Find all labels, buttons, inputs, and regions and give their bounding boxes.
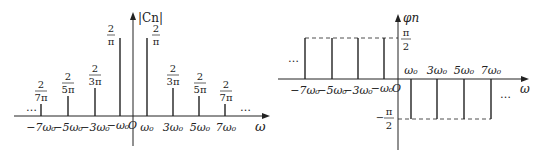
svg-text:7π: 7π xyxy=(220,92,233,103)
svg-text:5π: 5π xyxy=(194,84,207,95)
svg-text:O: O xyxy=(392,82,401,95)
svg-text:…: … xyxy=(288,52,299,65)
svg-text:−ω₀: −ω₀ xyxy=(371,82,394,95)
svg-text:2: 2 xyxy=(153,23,159,34)
y-axis-arrow-icon xyxy=(130,12,136,20)
svg-text:2: 2 xyxy=(108,23,114,34)
svg-text:3ω₀: 3ω₀ xyxy=(427,64,448,77)
svg-text:π: π xyxy=(153,36,160,47)
y-axis-arrow-icon xyxy=(395,14,401,22)
svg-text:…: … xyxy=(240,101,251,114)
svg-text:O: O xyxy=(128,119,137,132)
svg-text:ω: ω xyxy=(520,82,530,96)
svg-text:3π: 3π xyxy=(167,76,180,87)
svg-text:…: … xyxy=(26,101,37,114)
y-label: |Cn| xyxy=(138,11,163,25)
svg-text:−7ω₀: −7ω₀ xyxy=(26,121,56,134)
svg-text:−5ω₀: −5ω₀ xyxy=(53,121,83,134)
svg-text:π: π xyxy=(386,106,393,117)
svg-text:π: π xyxy=(108,36,115,47)
svg-text:3ω₀: 3ω₀ xyxy=(163,121,184,134)
svg-text:π: π xyxy=(403,27,410,38)
x-label: ω xyxy=(255,119,266,134)
svg-text:2: 2 xyxy=(197,71,203,82)
svg-text:2: 2 xyxy=(386,120,392,131)
svg-text:ω₀: ω₀ xyxy=(140,121,154,134)
svg-text:φn: φn xyxy=(403,11,419,25)
svg-text:7ω₀: 7ω₀ xyxy=(481,64,502,77)
svg-text:7ω₀: 7ω₀ xyxy=(216,121,237,134)
svg-text:5ω₀: 5ω₀ xyxy=(190,121,211,134)
phase-spectrum: φn ω π2 π2 − … … −7ω₀ −5ω₀ −3ω₀ −ω₀ ω₀ 3… xyxy=(278,11,530,150)
svg-text:2: 2 xyxy=(92,63,98,74)
svg-text:2: 2 xyxy=(223,79,229,90)
svg-text:−7ω₀: −7ω₀ xyxy=(290,84,320,97)
svg-text:2: 2 xyxy=(38,79,44,90)
svg-text:2: 2 xyxy=(170,63,176,74)
svg-text:…: … xyxy=(500,88,511,101)
svg-text:2: 2 xyxy=(403,41,409,52)
amplitude-spectrum: |Cn| ω 27π 25π 23π 2π 2π 23π 25π 27π … …… xyxy=(14,11,270,146)
svg-text:−3ω₀: −3ω₀ xyxy=(343,84,373,97)
spectrum-figure: |Cn| ω 27π 25π 23π 2π 2π 23π 25π 27π … …… xyxy=(0,0,541,159)
svg-text:3π: 3π xyxy=(89,76,102,87)
svg-text:−: − xyxy=(376,112,384,123)
svg-text:5ω₀: 5ω₀ xyxy=(454,64,475,77)
svg-text:−ω₀: −ω₀ xyxy=(107,119,130,132)
svg-text:ω₀: ω₀ xyxy=(404,64,418,77)
svg-text:2: 2 xyxy=(65,71,71,82)
svg-text:5π: 5π xyxy=(62,84,75,95)
